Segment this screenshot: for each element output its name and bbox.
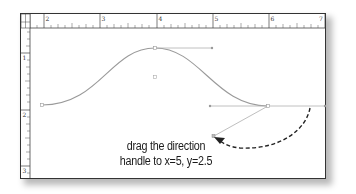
drag-arrow [220,108,310,148]
top-ruler-label-7: 7 [319,15,323,22]
left-ruler-label-3: 3 [23,167,27,174]
direction-handle-peak[interactable] [211,47,213,49]
top-ruler-label-3: 3 [102,15,106,22]
top-ruler[interactable]: 2 3 4 5 6 7 [21,14,325,28]
left-ruler-label-1: 1 [23,54,27,61]
dragged-handle-line [214,106,268,136]
left-ruler-label-2: 2 [23,111,27,118]
anchor-point-peak[interactable] [154,47,157,50]
top-ruler-label-6: 6 [271,15,275,22]
top-ruler-label-2: 2 [46,15,50,22]
ruler-origin-corner[interactable] [21,14,30,28]
direction-handle-right-end[interactable] [324,105,326,107]
left-ruler[interactable]: 1 2 3 [21,14,30,178]
direction-handle-left-end[interactable] [209,105,211,107]
instruction-line-2: handle to x=5, y=2.5 [118,154,214,169]
top-ruler-label-5: 5 [215,15,219,22]
center-point-marker [154,76,157,79]
instruction-line-1: drag the direction [118,139,214,154]
anchor-point-right[interactable] [267,105,270,108]
top-ruler-label-4: 4 [159,15,163,22]
anchor-point-left[interactable] [41,104,44,107]
